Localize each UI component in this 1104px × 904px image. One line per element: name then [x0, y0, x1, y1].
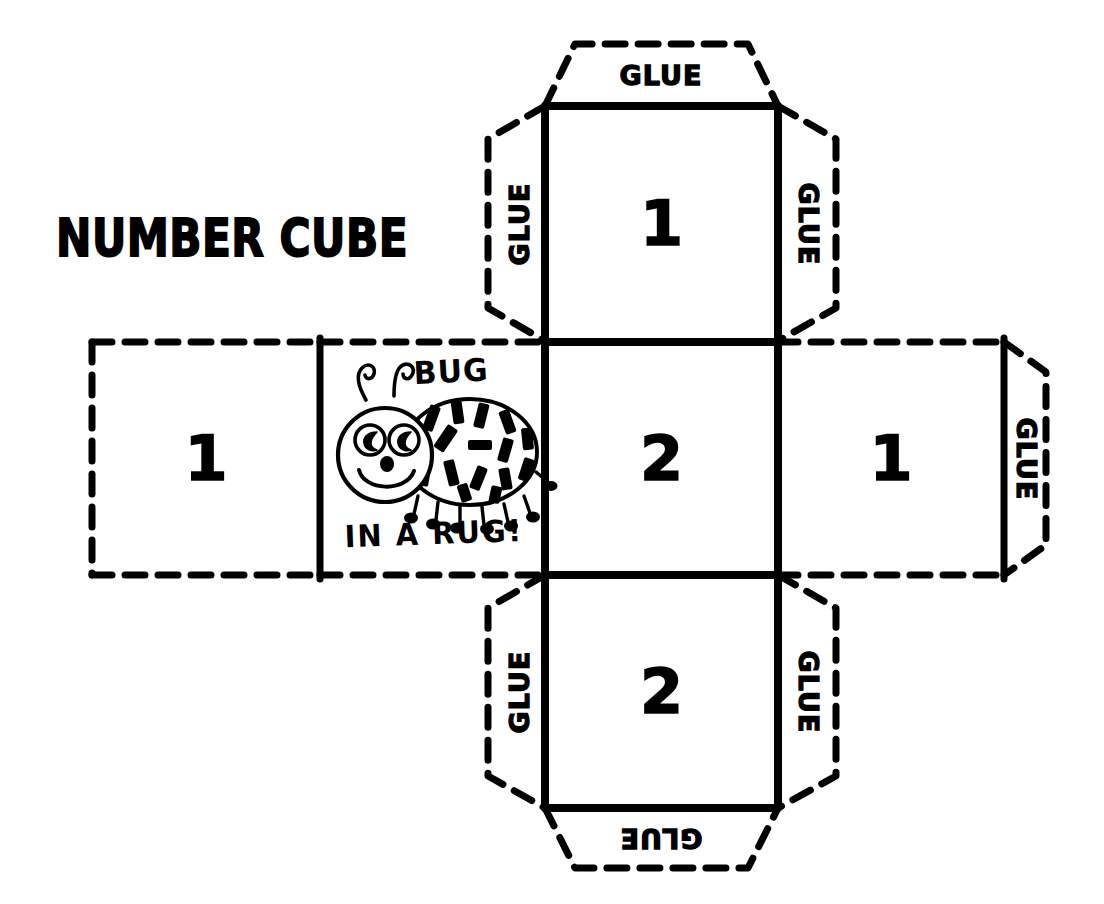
face-top-number: 1: [545, 106, 778, 342]
face-center: 2: [545, 342, 778, 575]
bug-word-label: BUG: [413, 354, 489, 389]
face-right-number: 1: [778, 342, 1004, 575]
glue-tab-top-right-label: GLUE: [795, 183, 822, 266]
face-bottom: 2: [545, 575, 778, 808]
page-title: NUMBER CUBE: [56, 212, 408, 264]
glue-tab-bottom-right-label: GLUE: [795, 651, 822, 734]
glue-tab-bottom-bottom-label: GLUE: [620, 825, 703, 852]
glue-tab-bottom-left-label: GLUE: [506, 651, 533, 734]
glue-tab-top-top-label: GLUE: [620, 62, 703, 89]
face-center-number: 2: [545, 342, 778, 575]
glue-tab-right-right-label: GLUE: [1013, 418, 1040, 501]
glue-tab-top-left-label: GLUE: [506, 183, 533, 266]
in-a-rug-label: IN A RUG!: [344, 516, 524, 553]
face-left: 1: [92, 342, 320, 575]
face-right: 1: [778, 342, 1004, 575]
face-bottom-number: 2: [545, 575, 778, 808]
face-top: 1: [545, 106, 778, 342]
face-left-number: 1: [92, 342, 320, 575]
worksheet-page: NUMBER CUBE: [0, 0, 1104, 904]
